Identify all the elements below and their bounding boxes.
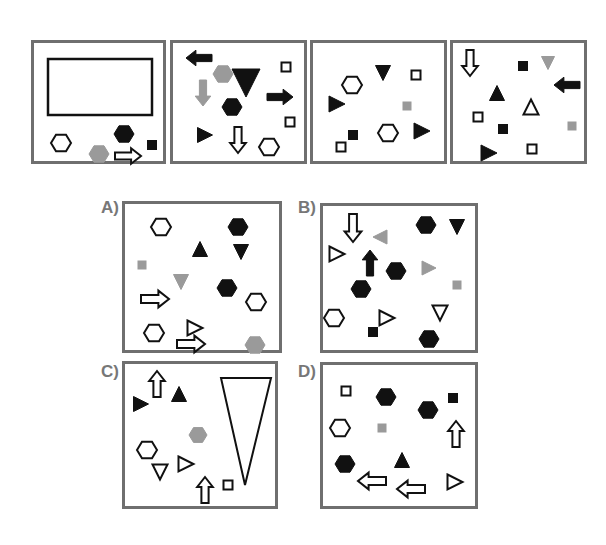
outline-triangle-down-icon xyxy=(153,465,168,480)
black-hexagon-icon xyxy=(418,402,438,418)
option-c-label: C) xyxy=(101,362,119,382)
black-triangle-up-icon xyxy=(395,453,410,468)
outline-square-icon xyxy=(337,143,346,152)
black-square-icon xyxy=(519,62,528,71)
black-hexagon-icon xyxy=(222,99,242,115)
black-square-icon xyxy=(349,131,358,140)
black-arrow-right-icon xyxy=(267,89,293,105)
outline-square-icon xyxy=(224,481,233,490)
black-square-icon xyxy=(499,125,508,134)
gray-triangle-down-icon xyxy=(174,275,189,290)
outline-hexagon-icon xyxy=(144,325,164,341)
black-triangle-up-icon xyxy=(193,242,208,257)
outline-hexagon-icon xyxy=(330,420,350,436)
black-triangle-right-icon xyxy=(414,123,430,139)
outline-hexagon-icon xyxy=(151,219,171,235)
black-hexagon-icon xyxy=(386,263,406,279)
outline-arrow-right-icon xyxy=(115,148,141,164)
black-square-icon xyxy=(148,141,157,150)
outline-square-icon xyxy=(286,118,295,127)
gray-square-icon xyxy=(453,281,461,289)
black-hexagon-icon xyxy=(416,217,436,233)
outline-arrow-left-icon xyxy=(397,481,425,498)
outline-triangle-down-icon xyxy=(433,306,448,321)
outline-triangle-right-icon xyxy=(330,247,345,262)
option-c-panel[interactable] xyxy=(122,361,278,509)
large-triangle-down-icon xyxy=(221,378,271,485)
gray-hexagon-icon xyxy=(189,428,207,443)
gray-triangle-right-icon xyxy=(422,261,436,275)
outline-arrow-up-icon xyxy=(448,421,464,447)
black-triangle-right-icon xyxy=(481,145,497,161)
black-triangle-down-icon xyxy=(376,66,391,81)
black-arrow-left-icon xyxy=(186,50,212,66)
black-triangle-down-icon xyxy=(232,69,260,97)
outline-arrow-down-icon xyxy=(345,214,362,242)
outline-hexagon-icon xyxy=(342,77,362,93)
outline-arrow-down-icon xyxy=(462,50,478,76)
outline-square-icon xyxy=(342,387,351,396)
black-triangle-down-icon xyxy=(234,245,249,260)
black-square-icon xyxy=(449,394,458,403)
gray-triangle-left-icon xyxy=(373,230,387,244)
black-hexagon-icon xyxy=(419,331,439,347)
gray-square-icon xyxy=(568,122,576,130)
black-triangle-up-icon xyxy=(172,387,187,402)
black-triangle-down-icon xyxy=(450,220,465,235)
gray-triangle-down-icon xyxy=(542,57,555,70)
outline-arrow-left-icon xyxy=(358,473,386,490)
outline-triangle-right-icon xyxy=(188,321,203,336)
black-hexagon-icon xyxy=(351,281,371,297)
outline-square-icon xyxy=(528,145,537,154)
gray-square-icon xyxy=(403,102,411,110)
outline-arrow-down-icon xyxy=(230,127,246,153)
outline-hexagon-icon xyxy=(324,310,344,326)
black-hexagon-icon xyxy=(217,280,237,296)
black-triangle-right-icon xyxy=(198,128,213,143)
outline-hexagon-icon xyxy=(51,135,71,151)
option-a-panel[interactable] xyxy=(122,201,282,353)
option-d-panel[interactable] xyxy=(320,362,478,509)
black-hexagon-icon xyxy=(376,389,396,405)
outline-square-icon xyxy=(474,113,483,122)
sequence-panel-4 xyxy=(450,40,587,164)
outline-arrow-up-icon xyxy=(197,477,213,503)
black-square-icon xyxy=(369,328,378,337)
outline-arrow-right-icon xyxy=(177,336,205,353)
outline-square-icon xyxy=(282,63,291,72)
black-hexagon-icon xyxy=(228,219,248,235)
sequence-panel-2 xyxy=(170,40,307,164)
black-hexagon-icon xyxy=(335,456,355,472)
outline-hexagon-icon xyxy=(137,442,157,458)
outline-triangle-right-icon xyxy=(380,311,395,326)
black-triangle-right-icon xyxy=(134,397,149,412)
outline-triangle-right-icon xyxy=(448,475,463,490)
outline-hexagon-icon xyxy=(246,294,266,310)
black-arrow-left-icon xyxy=(554,77,580,93)
option-b-label: B) xyxy=(298,198,316,218)
gray-square-icon xyxy=(138,261,146,269)
gray-arrow-down-icon xyxy=(195,80,211,106)
outline-triangle-right-icon xyxy=(179,457,194,472)
outline-triangle-up-icon xyxy=(524,100,539,115)
sequence-panel-1 xyxy=(31,40,166,164)
outline-arrow-up-icon xyxy=(149,371,165,397)
option-b-panel[interactable] xyxy=(320,203,478,353)
sequence-panel-3 xyxy=(310,40,447,164)
gray-hexagon-icon xyxy=(245,337,265,353)
gray-square-icon xyxy=(378,424,386,432)
outline-hexagon-icon xyxy=(259,139,279,155)
outline-arrow-right-icon xyxy=(141,291,169,308)
outline-hexagon-icon xyxy=(378,125,398,141)
gray-hexagon-icon xyxy=(89,146,109,162)
option-d-label: D) xyxy=(298,362,316,382)
outline-square-icon xyxy=(412,71,421,80)
black-arrow-up-icon xyxy=(362,250,378,276)
gray-hexagon-icon xyxy=(213,66,233,82)
black-triangle-up-icon xyxy=(490,86,505,101)
option-a-label: A) xyxy=(101,198,119,218)
black-hexagon-icon xyxy=(114,126,134,142)
black-triangle-right-icon xyxy=(329,96,345,112)
large-rectangle-icon xyxy=(48,59,152,115)
